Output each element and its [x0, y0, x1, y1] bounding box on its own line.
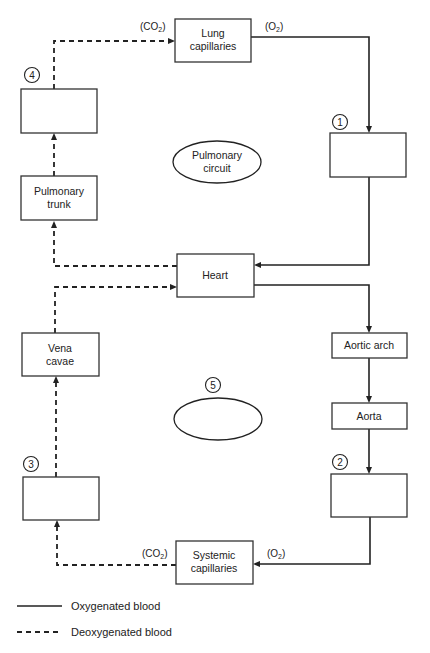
connector-box4-to-lung-capillaries	[54, 41, 170, 89]
blank-box-1[interactable]	[330, 133, 406, 177]
arrowhead-into-box4	[51, 133, 57, 140]
arrowhead-into-aorta	[366, 396, 372, 403]
arrowhead-into-box3	[54, 520, 60, 527]
svg-text:5: 5	[210, 380, 216, 391]
vena-cavae-label-line2: cavae	[46, 355, 74, 367]
arrowhead-into-aortic-arch	[366, 326, 372, 333]
connector-heart-to-aortic-arch	[254, 285, 369, 328]
gas-label-o2-lung: (O2)	[265, 21, 283, 33]
number-badge-4: 4	[25, 68, 40, 83]
connector-systemic-capillaries-to-box3	[57, 525, 176, 565]
lung-capillaries-box: Lung capillaries	[175, 19, 251, 62]
pulmonary-circuit-ellipse: Pulmonary circuit	[173, 141, 261, 183]
vena-cavae-box: Vena cavae	[22, 333, 99, 376]
arrowhead-into-vena-cavae	[53, 376, 59, 383]
svg-text:1: 1	[337, 117, 343, 128]
svg-text:3: 3	[28, 459, 34, 470]
arrowhead-into-box2	[366, 467, 372, 474]
arrowhead-into-pulmonary-trunk	[51, 221, 57, 228]
arrowhead-into-heart-from-right	[254, 262, 261, 268]
legend-oxygenated-label: Oxygenated blood	[71, 600, 160, 612]
connector-heart-to-pulmonary-trunk	[54, 226, 177, 266]
aorta-box: Aorta	[332, 403, 407, 429]
connector-box1-to-heart	[259, 177, 369, 265]
legend-item-oxygenated: Oxygenated blood	[17, 600, 160, 612]
number-badge-2: 2	[333, 455, 348, 470]
vena-cavae-label-line1: Vena	[48, 342, 72, 354]
pulmonary-circuit-label-line1: Pulmonary	[192, 149, 243, 161]
pulmonary-trunk-label-line2: trunk	[47, 198, 71, 210]
arrowhead-into-lung-capillaries	[168, 38, 175, 44]
blank-box-2[interactable]	[331, 474, 407, 517]
arrowhead-into-systemic-capillaries	[253, 561, 260, 567]
number-badge-5: 5	[206, 378, 221, 393]
legend: Oxygenated blood Deoxygenated blood	[17, 600, 172, 638]
blank-box-4[interactable]	[21, 89, 97, 133]
circulation-diagram: Lung capillaries 4 1 Pulmonary trunk Hea…	[0, 0, 430, 653]
aorta-label: Aorta	[356, 410, 381, 422]
systemic-capillaries-label-line1: Systemic	[193, 549, 236, 561]
legend-item-deoxygenated: Deoxygenated blood	[17, 626, 172, 638]
heart-label: Heart	[202, 269, 228, 281]
pulmonary-circuit-label-line2: circuit	[203, 162, 231, 174]
gas-label-co2-systemic: (CO2)	[142, 548, 168, 560]
systemic-circuit-blank-ellipse[interactable]	[174, 398, 262, 440]
systemic-capillaries-box: Systemic capillaries	[176, 541, 253, 584]
number-badge-3: 3	[24, 457, 39, 472]
pulmonary-trunk-box: Pulmonary trunk	[21, 176, 97, 220]
svg-text:2: 2	[337, 457, 343, 468]
connector-lung-capillaries-to-box1	[251, 37, 369, 128]
gas-label-o2-systemic: (O2)	[267, 548, 285, 560]
blank-box-3[interactable]	[23, 477, 99, 520]
aortic-arch-label: Aortic arch	[344, 339, 394, 351]
heart-box: Heart	[177, 254, 254, 297]
lung-capillaries-label-line2: capillaries	[190, 40, 237, 52]
lung-capillaries-label-line1: Lung	[201, 27, 225, 39]
legend-deoxygenated-label: Deoxygenated blood	[71, 626, 172, 638]
aortic-arch-box: Aortic arch	[332, 333, 407, 358]
arrowhead-into-heart-from-left	[170, 284, 177, 290]
pulmonary-trunk-label-line1: Pulmonary	[34, 185, 85, 197]
systemic-capillaries-label-line2: capillaries	[191, 562, 238, 574]
connector-vena-cavae-to-heart	[55, 287, 172, 333]
arrowhead-into-box1	[366, 126, 372, 133]
gas-label-co2-lung: (CO2)	[140, 21, 166, 33]
svg-text:4: 4	[29, 70, 35, 81]
number-badge-1: 1	[333, 115, 348, 130]
